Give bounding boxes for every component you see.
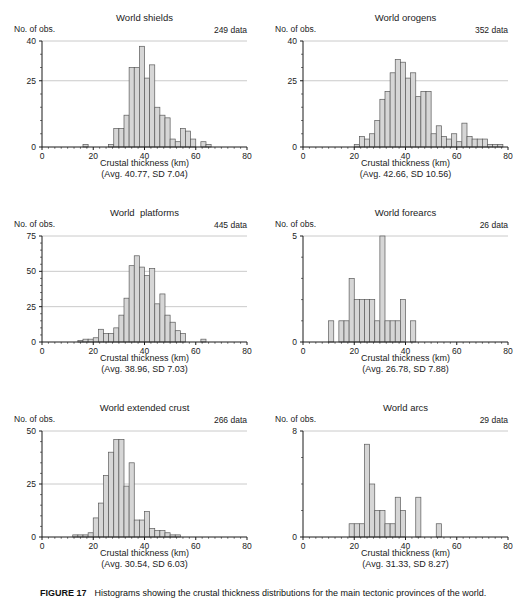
svg-text:0: 0 — [31, 337, 36, 347]
svg-text:0: 0 — [292, 142, 297, 152]
svg-text:0: 0 — [31, 532, 36, 542]
histogram-plot: 02040608002550 — [0, 426, 261, 556]
chart-title: World shields — [42, 12, 247, 23]
svg-text:40: 40 — [288, 36, 298, 46]
svg-text:25: 25 — [27, 479, 37, 489]
histogram-plot: 02040608005 — [261, 231, 522, 361]
data-count-label: 445 data — [42, 220, 247, 230]
chart-title: World orogens — [303, 12, 508, 23]
x-axis-label: Crustal thickness (km) — [303, 548, 508, 558]
svg-text:25: 25 — [27, 76, 37, 86]
data-count-label: 249 data — [42, 25, 247, 35]
svg-text:50: 50 — [27, 266, 37, 276]
histogram-panel-world-shields: World shields No. of obs. 249 data 02040… — [0, 0, 261, 195]
avg-sd-label: (Avg. 40.77, SD 7.04) — [42, 169, 247, 179]
svg-text:75: 75 — [27, 231, 37, 241]
svg-text:0: 0 — [292, 532, 297, 542]
svg-text:5: 5 — [292, 231, 297, 241]
x-axis-label: Crustal thickness (km) — [303, 158, 508, 168]
figure-caption: FIGURE 17Histograms showing the crustal … — [40, 588, 510, 598]
chart-title: World arcs — [303, 402, 508, 413]
data-count-label: 352 data — [303, 25, 508, 35]
data-count-label: 29 data — [303, 415, 508, 425]
svg-text:8: 8 — [292, 426, 297, 436]
avg-sd-label: (Avg. 30.54, SD 6.03) — [42, 559, 247, 569]
svg-text:25: 25 — [27, 302, 37, 312]
histogram-plot: 02040608002540 — [0, 36, 261, 166]
x-axis-label: Crustal thickness (km) — [42, 548, 247, 558]
svg-text:25: 25 — [288, 76, 298, 86]
histogram-panel-world-orogens: World orogens No. of obs. 352 data 02040… — [261, 0, 522, 195]
data-count-label: 26 data — [303, 220, 508, 230]
svg-text:0: 0 — [292, 337, 297, 347]
data-count-label: 266 data — [42, 415, 247, 425]
avg-sd-label: (Avg. 42.66, SD 10.56) — [303, 169, 508, 179]
histogram-panel-world-arcs: World arcs No. of obs. 29 data 020406080… — [261, 390, 522, 585]
histogram-plot: 02040608002540 — [261, 36, 522, 166]
svg-text:50: 50 — [27, 426, 37, 436]
chart-title: World forearcs — [303, 207, 508, 218]
figure-caption-text: Histograms showing the crustal thickness… — [95, 588, 487, 598]
svg-text:40: 40 — [27, 36, 37, 46]
x-axis-label: Crustal thickness (km) — [42, 353, 247, 363]
chart-title: World platforms — [42, 207, 247, 218]
histogram-panel-world-platforms: World platforms No. of obs. 445 data 020… — [0, 195, 261, 390]
avg-sd-label: (Avg. 38.96, SD 7.03) — [42, 364, 247, 374]
x-axis-label: Crustal thickness (km) — [303, 353, 508, 363]
histogram-panel-world-forearcs: World forearcs No. of obs. 26 data 02040… — [261, 195, 522, 390]
chart-title: World extended crust — [42, 402, 247, 413]
avg-sd-label: (Avg. 31.33, SD 8.27) — [303, 559, 508, 569]
figure-caption-label: FIGURE 17 — [40, 588, 87, 598]
x-axis-label: Crustal thickness (km) — [42, 158, 247, 168]
avg-sd-label: (Avg. 26.78, SD 7.88) — [303, 364, 508, 374]
histogram-plot: 0204060800255075 — [0, 231, 261, 361]
svg-text:0: 0 — [31, 142, 36, 152]
histogram-panel-world-extended-crust: World extended crust No. of obs. 266 dat… — [0, 390, 261, 585]
histogram-plot: 02040608008 — [261, 426, 522, 556]
